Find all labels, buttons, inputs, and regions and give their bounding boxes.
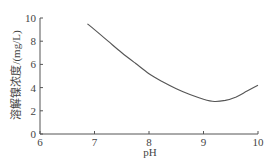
x-tick-label: 6 (37, 136, 43, 148)
axes (40, 18, 258, 134)
x-tick-label: 9 (201, 136, 207, 148)
y-tick-label: 2 (31, 105, 37, 117)
y-tick-label: 10 (25, 12, 37, 24)
x-tick-label: 7 (92, 136, 98, 148)
x-axis-label: pH (143, 146, 157, 158)
data-line (87, 24, 258, 102)
y-axis-label: 溶解镍浓度/(mg/L) (9, 30, 23, 120)
y-tick-label: 8 (31, 35, 37, 47)
axis-ticks: 6789100246810 (25, 12, 264, 148)
line-chart: 6789100246810 pH 溶解镍浓度/(mg/L) (0, 0, 279, 163)
y-tick-label: 6 (31, 58, 37, 70)
y-tick-label: 4 (31, 82, 37, 94)
y-tick-label: 0 (31, 128, 37, 140)
x-tick-label: 10 (253, 136, 265, 148)
